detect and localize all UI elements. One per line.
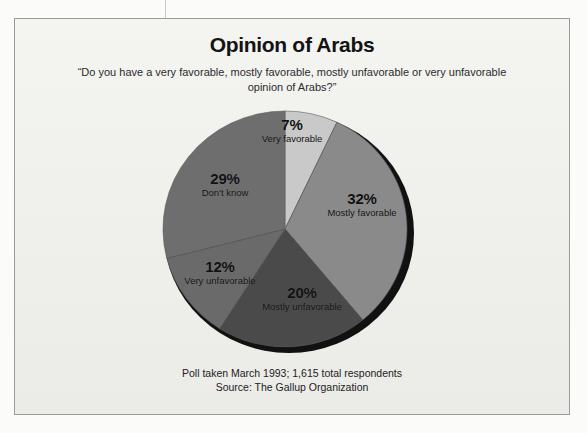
chart-frame: Opinion of Arabs “Do you have a very fav… [14,18,570,415]
page-title: Opinion of Arabs [15,33,569,57]
chart-canvas: Opinion of Arabs “Do you have a very fav… [15,19,569,414]
footer-line-2: Source: The Gallup Organization [15,380,569,394]
chart-source-footer: Poll taken March 1993; 1,615 total respo… [15,366,569,394]
pie-graphic: 7% Very favorable 32% Mostly favorable 2… [153,107,431,355]
scan-artifact-line [165,0,166,19]
pie-slices [163,111,407,347]
pie-svg [153,107,431,355]
footer-line-1: Poll taken March 1993; 1,615 total respo… [15,366,569,380]
pie-chart: 7% Very favorable 32% Mostly favorable 2… [15,107,569,357]
chart-subtitle-question: “Do you have a very favorable, mostly fa… [71,65,513,95]
